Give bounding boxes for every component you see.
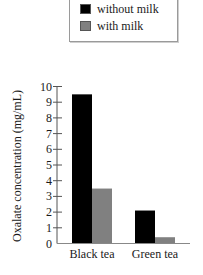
x-tick-label: Black tea	[70, 247, 116, 261]
y-tick-label: 10	[40, 80, 52, 94]
y-tick-label: 7	[46, 127, 52, 141]
axes-group: Black teaGreen tea012345678910	[40, 80, 190, 262]
x-tick-label: Green tea	[132, 247, 179, 261]
bar-black-tea-with-milk	[92, 189, 112, 244]
bars-group	[72, 94, 175, 243]
y-tick-label: 2	[46, 205, 52, 219]
bar-green-tea-without-milk	[135, 211, 155, 244]
y-tick-label: 3	[46, 189, 52, 203]
bar-black-tea-without-milk	[72, 94, 92, 243]
y-tick-label: 1	[46, 221, 52, 235]
y-tick-label: 8	[46, 111, 52, 125]
y-tick-label: 9	[46, 95, 52, 109]
y-tick-label: 0	[46, 237, 52, 251]
y-tick-label: 5	[46, 158, 52, 172]
bar-chart: Black teaGreen tea012345678910	[0, 0, 203, 275]
y-tick-label: 4	[46, 174, 52, 188]
bar-green-tea-with-milk	[155, 237, 175, 243]
y-tick-label: 6	[46, 142, 52, 156]
